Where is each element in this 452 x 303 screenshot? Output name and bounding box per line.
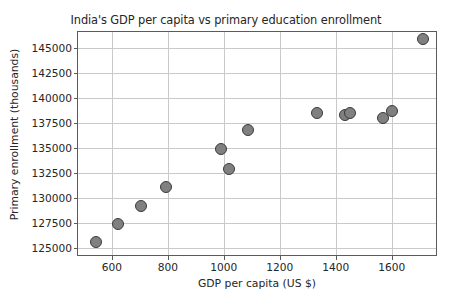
gridline-horizontal: [78, 73, 436, 74]
gridline-horizontal: [78, 148, 436, 149]
gridline-horizontal: [78, 98, 436, 99]
y-axis-label: Primary enrollment (thousands): [8, 35, 21, 235]
scatter-point: [417, 33, 429, 45]
y-tick-label: 135000: [32, 142, 72, 154]
chart-figure: India's GDP per capita vs primary educat…: [0, 0, 452, 303]
scatter-point: [386, 105, 398, 117]
x-tick-label: 1200: [266, 261, 293, 273]
scatter-point: [215, 143, 227, 155]
x-tick-mark: [392, 255, 393, 260]
y-tick-label: 130000: [32, 192, 72, 204]
gridline-horizontal: [78, 48, 436, 49]
y-tick-mark: [74, 123, 79, 124]
gridline-vertical: [336, 32, 337, 255]
x-tick-mark: [224, 255, 225, 260]
scatter-point: [223, 163, 235, 175]
gridline-vertical: [280, 32, 281, 255]
gridline-horizontal: [78, 198, 436, 199]
x-tick-label: 1400: [322, 261, 349, 273]
y-tick-mark: [74, 73, 79, 74]
y-tick-label: 140000: [32, 92, 72, 104]
y-tick-label: 125000: [32, 242, 72, 254]
y-tick-mark: [74, 148, 79, 149]
scatter-point: [160, 181, 172, 193]
y-tick-mark: [74, 248, 79, 249]
gridline-horizontal: [78, 223, 436, 224]
scatter-point: [311, 107, 323, 119]
scatter-point: [135, 200, 147, 212]
y-tick-label: 127500: [32, 217, 72, 229]
scatter-point: [112, 218, 124, 230]
x-tick-label: 800: [158, 261, 178, 273]
chart-title: India's GDP per capita vs primary educat…: [0, 13, 452, 27]
plot-area: 1250001275001300001325001350001375001400…: [77, 31, 437, 256]
gridline-horizontal: [78, 248, 436, 249]
gridline-vertical: [168, 32, 169, 255]
gridline-horizontal: [78, 173, 436, 174]
x-tick-label: 1000: [210, 261, 237, 273]
y-tick-mark: [74, 173, 79, 174]
y-tick-mark: [74, 223, 79, 224]
x-axis-label: GDP per capita (US $): [77, 277, 437, 290]
x-tick-label: 600: [102, 261, 122, 273]
scatter-point: [344, 107, 356, 119]
y-tick-label: 132500: [32, 167, 72, 179]
y-tick-label: 137500: [32, 117, 72, 129]
y-tick-mark: [74, 98, 79, 99]
x-tick-mark: [168, 255, 169, 260]
y-tick-label: 142500: [32, 67, 72, 79]
scatter-point: [242, 124, 254, 136]
gridline-vertical: [392, 32, 393, 255]
y-tick-mark: [74, 48, 79, 49]
x-tick-mark: [336, 255, 337, 260]
x-tick-mark: [280, 255, 281, 260]
y-tick-label: 145000: [32, 42, 72, 54]
x-tick-mark: [112, 255, 113, 260]
y-tick-mark: [74, 198, 79, 199]
scatter-point: [90, 236, 102, 248]
x-tick-label: 1600: [378, 261, 405, 273]
